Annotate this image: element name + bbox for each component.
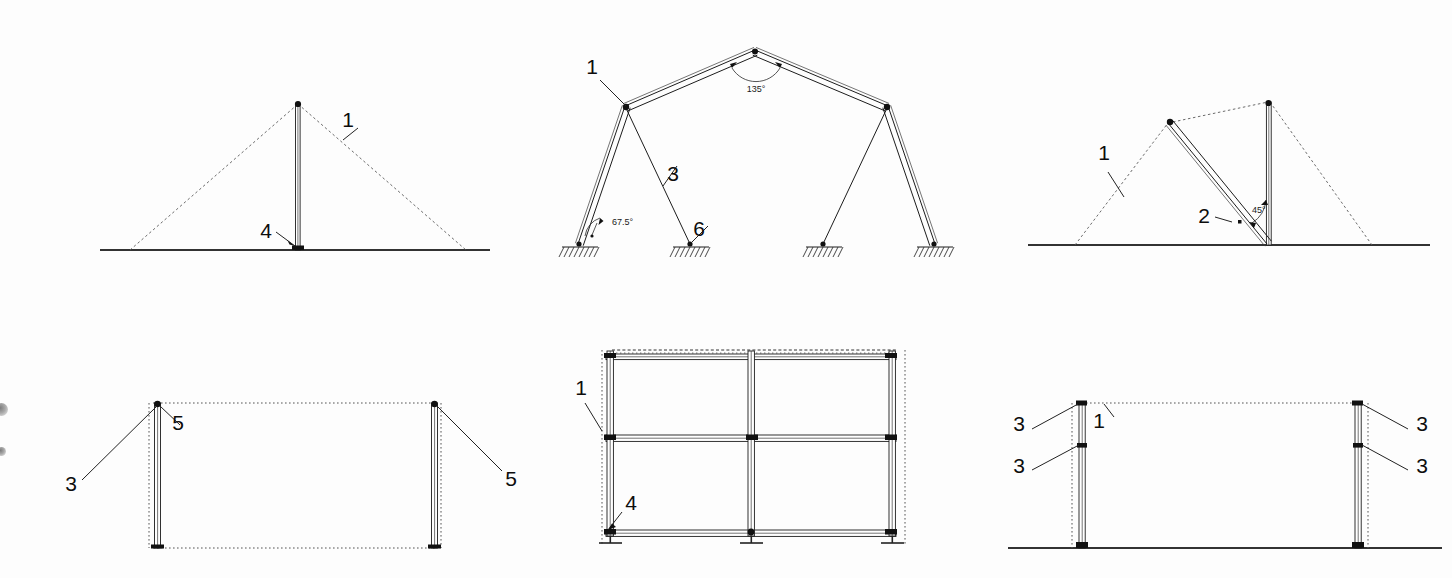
right-guy-member — [823, 106, 888, 244]
left-post — [151, 401, 164, 549]
leader-line-fig3-1 — [1108, 172, 1124, 197]
leader-line-fig6-3-midleft — [1032, 445, 1079, 470]
support-left-leg — [559, 241, 599, 257]
figure-two-post-bay-plan: 5 3 5 — [50, 385, 530, 565]
figure-6-label-3-midright: 3 — [1416, 454, 1428, 477]
dashed-envelope-left — [130, 104, 298, 250]
leader-line-fig6-1 — [1104, 404, 1114, 417]
leader-line-fig2-1 — [600, 80, 626, 106]
apex-angle-label: 135° — [747, 84, 766, 94]
dashed-envelope-upper — [1168, 102, 1268, 123]
figure-1-label-1: 1 — [342, 108, 354, 131]
figure-5-label-1: 1 — [575, 376, 587, 399]
figure-scaffold-grid-frame-elevation: 1 4 — [570, 338, 950, 558]
figure-2-label-1: 1 — [586, 55, 598, 78]
apex-arc-arrow-left-icon — [730, 62, 737, 68]
strut-angle-label: 45° — [1252, 205, 1266, 215]
right-eaves-node — [884, 104, 890, 110]
edge-smudge-upper-icon — [0, 403, 8, 416]
figure-portal-gable-frame-elevation: 135° 67.5° 1 3 6 — [540, 36, 990, 271]
strut-angle-tick-icon — [1238, 220, 1242, 224]
left-post — [1076, 401, 1088, 549]
left-guy-member — [625, 106, 690, 244]
leader-line-fig6-3-topleft — [1032, 404, 1078, 429]
leader-line-fig6-3-midright — [1362, 445, 1408, 470]
right-rafter — [753, 47, 889, 111]
figure-2-label-6: 6 — [693, 217, 705, 240]
base-angle-label: 67.5° — [612, 217, 634, 227]
left-post-base-node — [1076, 542, 1088, 548]
right-post-head-node — [1352, 401, 1363, 406]
leader-line-4 — [276, 232, 295, 246]
figure-4-label-5-left: 5 — [172, 411, 184, 434]
support-right-leg — [914, 241, 954, 257]
edge-smudge-lower-icon — [0, 447, 6, 456]
strut-angle-arrow-bot-icon — [1249, 222, 1256, 228]
mast-top-node — [1265, 100, 1271, 106]
dashed-envelope-left — [1075, 123, 1168, 245]
dashed-envelope-right — [298, 104, 466, 250]
base-arc-arrow-icon — [599, 218, 604, 225]
leader-line-fig3-2 — [1215, 217, 1232, 222]
figure-two-post-ground-elevation: 3 1 3 3 3 — [1000, 385, 1450, 565]
drawing-sheet: 1 4 — [0, 0, 1452, 578]
figure-braced-mast-elevation: 45° 1 2 — [1020, 80, 1440, 275]
figure-5-label-4: 4 — [625, 491, 637, 514]
figure-3-label-1: 1 — [1098, 141, 1110, 164]
left-eaves-node — [623, 104, 629, 110]
figure-6-label-3-topleft: 3 — [1013, 412, 1025, 435]
right-post-base-node — [1352, 542, 1364, 548]
figure-6-label-3-topright: 3 — [1416, 412, 1428, 435]
base-angle-dot-icon — [590, 234, 593, 237]
base-plate-middle — [740, 536, 763, 543]
figure-4-label-5-right: 5 — [505, 467, 517, 490]
leader-line-fig5-1 — [585, 403, 602, 431]
diagonal-strut — [1166, 120, 1271, 246]
support-left-guy — [670, 241, 710, 257]
base-angle-leader — [592, 223, 597, 235]
strut-head-node — [1167, 119, 1173, 125]
right-post — [1352, 401, 1364, 549]
right-leg — [883, 105, 938, 246]
middle-standard — [748, 351, 754, 536]
right-standard — [889, 351, 895, 536]
support-right-guy — [803, 241, 843, 257]
right-post-joint-node — [1353, 443, 1363, 448]
left-rafter — [624, 47, 757, 111]
base-plate-right — [881, 536, 904, 543]
figure-single-mast-elevation: 1 4 — [90, 80, 510, 280]
figure-4-label-3: 3 — [65, 472, 77, 495]
figure-6-label-3-midleft: 3 — [1013, 454, 1025, 477]
leader-line-fig4-3 — [82, 406, 157, 480]
leader-line-fig6-3-topright — [1362, 404, 1408, 429]
mast-top-node — [295, 101, 301, 107]
dashed-envelope-right — [1270, 102, 1372, 245]
right-post — [428, 401, 441, 549]
mast-base-node — [292, 246, 304, 251]
figure-3-label-2: 2 — [1198, 204, 1210, 227]
figure-6-label-1: 1 — [1093, 409, 1105, 432]
apex-node — [752, 49, 758, 55]
figure-2-label-3: 3 — [667, 162, 679, 185]
apex-angle-arc — [732, 68, 780, 82]
figure-1-label-4: 4 — [260, 219, 272, 242]
leader-line-fig4-5right — [437, 406, 502, 471]
left-standard — [607, 351, 613, 536]
